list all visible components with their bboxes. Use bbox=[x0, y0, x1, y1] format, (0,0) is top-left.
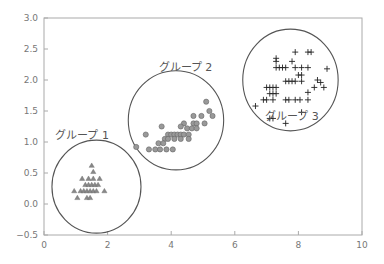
plus-marker bbox=[273, 84, 279, 90]
triangle-marker bbox=[86, 176, 91, 180]
triangle-marker bbox=[72, 188, 77, 192]
scatter-chart: 0246810−0.50.00.51.01.52.02.53.0 グループ 1グ… bbox=[0, 0, 384, 264]
plus-marker bbox=[286, 97, 292, 103]
triangle-marker bbox=[102, 188, 107, 192]
circle-marker bbox=[157, 147, 162, 152]
circle-marker bbox=[210, 113, 215, 118]
plus-marker bbox=[299, 78, 305, 84]
triangle-marker bbox=[91, 169, 96, 173]
plus-marker bbox=[273, 58, 279, 64]
plus-marker bbox=[308, 49, 314, 55]
circle-marker bbox=[194, 126, 199, 131]
plus-marker bbox=[321, 84, 327, 90]
circle-marker bbox=[146, 147, 151, 152]
plus-marker bbox=[305, 65, 311, 71]
circle-marker bbox=[164, 147, 169, 152]
circle-marker bbox=[170, 147, 175, 152]
x-tick-label: 8 bbox=[296, 240, 302, 250]
circle-marker bbox=[178, 124, 183, 129]
plus-marker bbox=[299, 65, 305, 71]
circle-marker bbox=[172, 136, 177, 141]
circle-marker bbox=[178, 136, 183, 141]
triangle-marker bbox=[75, 195, 80, 199]
triangle-marker bbox=[97, 176, 102, 180]
group-label-1: グループ 1 bbox=[55, 128, 109, 142]
y-tick-label: 2.0 bbox=[24, 75, 39, 85]
triangle-marker bbox=[91, 176, 96, 180]
circle-marker bbox=[199, 113, 204, 118]
y-tick-label: 2.5 bbox=[24, 44, 38, 54]
y-tick-label: 3.0 bbox=[24, 13, 39, 23]
plus-marker bbox=[270, 97, 276, 103]
x-tick-label: 6 bbox=[232, 240, 238, 250]
plus-marker bbox=[252, 103, 258, 109]
plus-marker bbox=[311, 84, 317, 90]
circle-marker bbox=[191, 113, 196, 118]
plot-frame bbox=[44, 18, 362, 235]
triangle-marker bbox=[80, 176, 85, 180]
plus-marker bbox=[297, 97, 303, 103]
group-label-3: グループ 3 bbox=[265, 109, 319, 123]
plus-marker bbox=[289, 58, 295, 64]
x-tick-label: 2 bbox=[105, 240, 111, 250]
x-tick-label: 4 bbox=[168, 240, 174, 250]
circle-marker bbox=[156, 141, 161, 146]
plus-marker bbox=[324, 66, 330, 72]
plus-marker bbox=[292, 49, 298, 55]
y-tick-label: 0.0 bbox=[24, 199, 39, 209]
plus-marker bbox=[264, 97, 270, 103]
group-circle-2 bbox=[128, 71, 223, 170]
triangle-marker bbox=[89, 163, 94, 167]
y-tick-label: 1.0 bbox=[24, 137, 39, 147]
y-tick-label: 0.5 bbox=[24, 168, 38, 178]
plus-marker bbox=[292, 65, 298, 71]
y-tick-label: −0.5 bbox=[16, 230, 38, 240]
circle-marker bbox=[161, 141, 166, 146]
circle-marker bbox=[159, 124, 164, 129]
circle-marker bbox=[153, 147, 158, 152]
circle-marker bbox=[185, 126, 190, 131]
plus-marker bbox=[299, 72, 305, 78]
plus-marker bbox=[305, 89, 311, 95]
plus-marker bbox=[292, 78, 298, 84]
circle-marker bbox=[202, 121, 207, 126]
circle-marker bbox=[189, 126, 194, 131]
x-tick-label: 0 bbox=[41, 240, 47, 250]
circle-marker bbox=[165, 136, 170, 141]
circle-marker bbox=[207, 108, 212, 113]
circle-marker bbox=[134, 144, 139, 149]
circle-marker bbox=[186, 136, 191, 141]
circle-marker bbox=[143, 132, 148, 137]
circle-marker bbox=[194, 121, 199, 126]
plus-marker bbox=[283, 65, 289, 71]
plus-marker bbox=[305, 97, 311, 103]
x-tick-label: 10 bbox=[356, 240, 368, 250]
y-tick-label: 1.5 bbox=[24, 106, 38, 116]
group-label-2: グループ 2 bbox=[159, 60, 213, 74]
circle-marker bbox=[204, 99, 209, 104]
plus-marker bbox=[273, 91, 279, 97]
